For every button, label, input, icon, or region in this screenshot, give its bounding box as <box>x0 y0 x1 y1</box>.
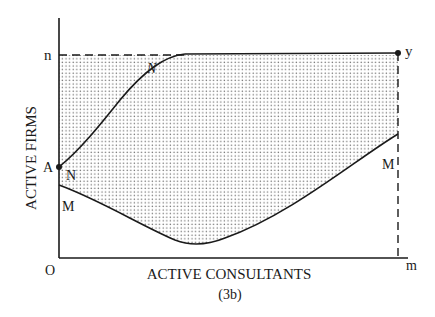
point-a-label: A <box>43 160 54 175</box>
figure-caption: (3b) <box>218 287 242 303</box>
origin-label: O <box>45 263 55 278</box>
diagram-figure: n y N A N M M O m ACTIVE CONSULTANTS ACT… <box>0 0 435 317</box>
y-max-label: n <box>44 47 52 63</box>
x-max-label: m <box>406 258 417 273</box>
y-axis-title: ACTIVE FIRMS <box>23 106 39 210</box>
x-axis-title: ACTIVE CONSULTANTS <box>147 266 312 282</box>
corner-point-label: y <box>405 43 413 59</box>
diagram-canvas: n y N A N M M O m ACTIVE CONSULTANTS ACT… <box>0 0 435 317</box>
shaded-region <box>59 55 398 244</box>
lower-curve-label-right: M <box>382 157 395 172</box>
top-boundary-line <box>185 53 398 54</box>
point-a-dot <box>56 164 62 170</box>
point-y-dot <box>395 50 401 56</box>
lower-curve-label-left: M <box>62 199 75 214</box>
upper-curve-label-bottom: N <box>66 168 76 183</box>
upper-curve-label-top: N <box>146 61 157 76</box>
